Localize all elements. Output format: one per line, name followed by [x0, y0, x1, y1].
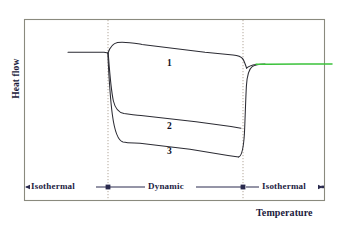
curve-1-path	[108, 42, 247, 68]
curve-2-path	[108, 53, 241, 128]
curve-label-1: 1	[167, 59, 172, 69]
dsc-thermogram-figure: Heat flow Temperature 1 2 3 Isothermal D…	[0, 0, 348, 233]
curve-label-2: 2	[167, 122, 172, 132]
phase-label-isothermal-right: Isothermal	[262, 182, 306, 191]
curve-baseline-entry	[68, 52, 108, 53]
curve-label-3: 3	[167, 147, 172, 157]
y-axis-title: Heat flow	[12, 42, 22, 116]
phase-node-right-icon	[241, 185, 246, 190]
arrow-left-outer-icon	[25, 185, 30, 189]
phase-label-dynamic: Dynamic	[148, 182, 184, 191]
plot-canvas	[0, 0, 348, 233]
phase-node-left-icon	[106, 185, 111, 190]
phase-endpoint-right-icon	[321, 186, 324, 189]
plot-frame	[25, 20, 325, 201]
curve-3-path	[108, 53, 239, 157]
phase-label-isothermal-left: Isothermal	[31, 182, 75, 191]
x-axis-title: Temperature	[256, 208, 313, 218]
